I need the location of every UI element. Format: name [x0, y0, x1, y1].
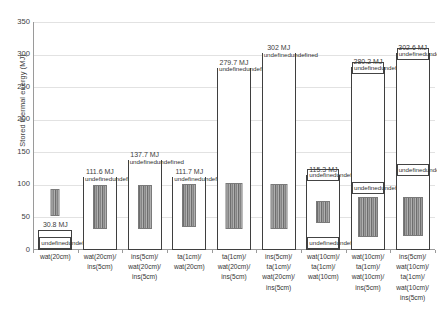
bar-value-label: 111.6 MJ — [86, 168, 114, 175]
bar-annotation-inner: undefinedundefined — [397, 164, 429, 176]
bar-outline[interactable]: undefinedundefinedundefinedundefined — [351, 67, 385, 250]
bar-annotation-inner: undefinedundefined — [307, 237, 339, 249]
bar-group: undefinedundefined137.7 MJ — [122, 22, 167, 250]
x-category-line: wat(10cm)/ — [346, 272, 391, 282]
bar-outline[interactable]: undefinedundefined — [262, 53, 296, 250]
bar-outline[interactable]: undefinedundefinedundefinedundefined — [306, 175, 340, 250]
y-axis-tick-labels: 0 50 100 150 200 250 300 350 — [0, 0, 30, 311]
x-category-label: ins(5cm)/wat(20cm)/ins(5cm) — [122, 252, 167, 283]
x-category-line: ta(1cm)/ — [346, 262, 391, 272]
bar-value-label: 115.3 MJ — [309, 166, 337, 173]
bar-annotation-outer: undefinedundefined — [39, 237, 71, 249]
bar-outline[interactable]: undefinedundefined — [128, 160, 162, 250]
annotation-water-temp: undefinedundefined — [41, 239, 69, 247]
y-tick-350: 350 — [4, 18, 30, 26]
x-category-line: ta(1cm)/ — [301, 262, 346, 272]
x-category-label: wat(10cm)/ta(1cm)/wat(10cm)/ins(5cm) — [346, 252, 391, 293]
y-tick-100: 100 — [4, 180, 30, 188]
x-category-line: wat(10cm)/ — [346, 252, 391, 262]
annotation-water-temp: undefinedundefined — [399, 50, 427, 58]
x-category-line: wat(20cm)/ — [78, 252, 123, 262]
bar-value-label: 302 MJ — [267, 44, 290, 51]
bar-outline[interactable]: undefinedundefinedundefinedundefined — [396, 53, 430, 250]
bar-value-label: 302.6 MJ — [398, 44, 427, 51]
x-category-label: ta(1cm)/wat(20cm) — [167, 252, 212, 272]
bar-outline[interactable]: undefinedundefined — [172, 177, 206, 250]
bar-annotation-inner: undefinedundefined — [352, 182, 384, 194]
annotation-water-temp: undefinedundefined — [219, 65, 249, 73]
y-tick-250: 250 — [4, 83, 30, 91]
x-category-line: wat(20cm)/ — [122, 262, 167, 272]
x-category-line: ins(5cm)/ — [122, 252, 167, 262]
bar-value-label: 280.2 MJ — [354, 58, 383, 65]
water-layer-block — [316, 201, 330, 223]
bar-outline[interactable]: undefinedundefined — [217, 68, 251, 250]
plot-area: undefinedundefined30.8 MJundefinedundefi… — [33, 22, 435, 250]
x-category-line: ins(5cm) — [256, 283, 301, 293]
x-category-line: ta(1cm)/ — [167, 252, 212, 262]
bar-value-label: 137.7 MJ — [130, 151, 159, 158]
annotation-water-temp: undefinedundefined — [85, 175, 115, 183]
x-category-line: ins(5cm) — [346, 283, 391, 293]
bar-value-label: 111.7 MJ — [175, 168, 203, 175]
annotation-water-temp: undefinedundefined — [130, 158, 160, 166]
bar-group: undefinedundefined30.8 MJ — [33, 22, 78, 250]
bar-group: undefinedundefinedundefinedundefined280.… — [346, 22, 391, 250]
x-category-label: ins(5cm)/ta(1cm)/wat(20cm)/ins(5cm) — [256, 252, 301, 293]
x-category-label: wat(20cm)/ins(5cm) — [78, 252, 123, 272]
bar-group: undefinedundefinedundefinedundefined115.… — [301, 22, 346, 250]
y-tick-50: 50 — [4, 213, 30, 221]
y-tick-150: 150 — [4, 148, 30, 156]
x-category-label: wat(10cm)/ta(1cm)/wat(10cm) — [301, 252, 346, 283]
x-category-line: wat(20cm) — [167, 262, 212, 272]
water-layer-block — [138, 185, 152, 229]
bar-annotation-outer: undefinedundefined — [84, 174, 116, 184]
x-category-line: wat(10cm)/ — [390, 262, 435, 272]
x-category-line: ins(5cm) — [122, 272, 167, 282]
annotation-water-temp: undefinedundefined — [174, 175, 204, 183]
x-category-line: ins(5cm) — [390, 293, 435, 303]
x-category-line: wat(10cm)/ — [301, 252, 346, 262]
bar-group: undefinedundefined111.7 MJ — [167, 22, 212, 250]
y-tick-200: 200 — [4, 115, 30, 123]
stored-thermal-energy-chart: Stored thermal energy (MJ) 0 50 100 150 … — [0, 0, 437, 311]
annotation-water-temp: undefinedundefined — [264, 51, 294, 59]
x-category-line: ta(1cm)/ — [212, 252, 257, 262]
x-category-line: wat(20cm)/ — [212, 262, 257, 272]
y-tick-300: 300 — [4, 50, 30, 58]
x-category-line: ta(1cm)/ — [390, 272, 435, 282]
x-category-label: wat(20cm) — [33, 252, 78, 262]
x-category-label: ins(5cm)/wat(10cm)/ta(1cm)/wat(10cm)/ins… — [390, 252, 435, 303]
x-category-line: wat(10cm) — [301, 272, 346, 282]
x-category-line: ta(1cm)/ — [256, 262, 301, 272]
water-layer-block — [358, 197, 378, 237]
water-layer-block — [93, 185, 107, 229]
x-category-line: ins(5cm) — [212, 272, 257, 282]
bar-group: undefinedundefined302 MJ — [256, 22, 301, 250]
x-category-line: ins(5cm) — [78, 262, 123, 272]
bar-annotation-outer: undefinedundefined — [129, 157, 161, 167]
bar-group: undefinedundefinedundefinedundefined302.… — [390, 22, 435, 250]
bar-outline[interactable]: undefinedundefined — [83, 177, 117, 250]
bar-group: undefinedundefined111.6 MJ — [78, 22, 123, 250]
water-layer-block — [403, 197, 423, 236]
y-tick-0: 0 — [4, 246, 30, 254]
annotation-water-temp: undefinedundefined — [399, 166, 427, 174]
bar-outline[interactable]: undefinedundefined — [38, 230, 72, 250]
water-layer-block — [270, 184, 287, 230]
bar-annotation-outer: undefinedundefined — [263, 50, 295, 60]
bar-value-label: 279.7 MJ — [220, 59, 249, 66]
x-axis-category-labels: wat(20cm)wat(20cm)/ins(5cm)ins(5cm)/wat(… — [33, 252, 435, 311]
annotation-water-temp: undefinedundefined — [309, 239, 337, 247]
water-layer-block — [225, 183, 242, 230]
water-layer-block — [51, 189, 60, 216]
x-category-label: ta(1cm)/wat(20cm)/ins(5cm) — [212, 252, 257, 283]
bar-group: undefinedundefined279.7 MJ — [212, 22, 257, 250]
bar-value-label: 30.8 MJ — [43, 221, 68, 228]
x-category-line: ins(5cm)/ — [256, 252, 301, 262]
x-tickmark — [435, 250, 436, 253]
x-category-line: wat(20cm) — [33, 252, 78, 262]
water-layer-block — [182, 184, 196, 227]
x-category-line: wat(10cm)/ — [390, 283, 435, 293]
annotation-water-temp: undefinedundefined — [354, 184, 382, 192]
